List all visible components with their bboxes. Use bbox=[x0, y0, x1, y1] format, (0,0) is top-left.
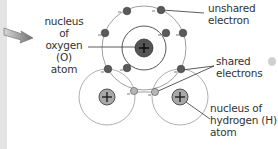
electron-icon bbox=[123, 64, 131, 72]
shared-electrons-leader bbox=[156, 66, 214, 92]
label-line: hydrogen (H) bbox=[210, 114, 277, 126]
pointer-arrow-icon bbox=[4, 28, 33, 43]
electron-icon bbox=[179, 29, 187, 37]
label-line: atom bbox=[210, 126, 277, 138]
page-edge-marker bbox=[268, 57, 276, 66]
electron-icon bbox=[177, 65, 185, 73]
label-line: electron bbox=[208, 14, 255, 26]
electron-icon bbox=[123, 7, 131, 15]
label-line: unshared bbox=[208, 2, 255, 14]
label-line: atom bbox=[38, 63, 90, 75]
shared-electrons-label: shared electrons bbox=[216, 55, 263, 79]
electron-icon bbox=[162, 29, 170, 37]
unshared-electron-leader bbox=[162, 10, 204, 13]
shared-electrons bbox=[130, 87, 158, 95]
label-line: oxygen (O) bbox=[38, 39, 90, 63]
oxygen-nucleus-label: nucleus of oxygen (O) atom bbox=[38, 15, 90, 75]
label-line: nucleus of bbox=[210, 102, 277, 114]
hydrogen-left-nucleus-icon bbox=[99, 89, 115, 105]
electron-icon bbox=[130, 87, 137, 94]
label-line: shared bbox=[216, 55, 263, 67]
hydrogen-nucleus-label: nucleus of hydrogen (H) atom bbox=[210, 102, 277, 138]
hydrogen-right-nucleus-icon bbox=[172, 89, 188, 105]
electron-icon bbox=[151, 88, 158, 95]
unshared-electron-label: unshared electron bbox=[208, 2, 255, 26]
electron-icon bbox=[157, 6, 165, 14]
hydrogen-nucleus-leader bbox=[186, 102, 210, 119]
label-line: nucleus of bbox=[38, 15, 90, 39]
electron-icon bbox=[101, 29, 109, 37]
electron-icon bbox=[104, 65, 112, 73]
oxygen-nucleus-icon bbox=[135, 39, 153, 57]
label-line: electrons bbox=[216, 67, 263, 79]
